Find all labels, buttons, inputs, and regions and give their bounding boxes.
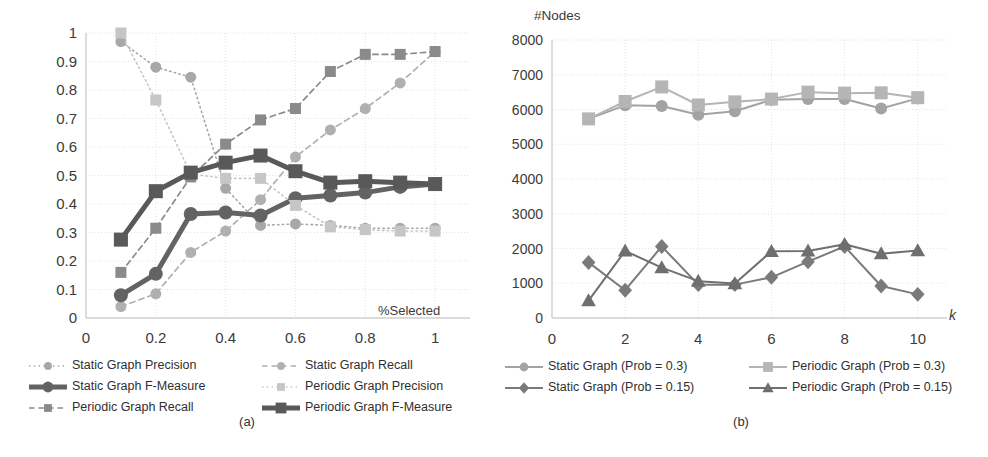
legend-key-periodic-prob-015-icon [748, 381, 788, 395]
legend-item-periodic-precision[interactable]: Periodic Graph Precision [261, 378, 490, 395]
svg-text:3000: 3000 [512, 206, 543, 222]
legend-key-static-recall-icon [261, 359, 301, 373]
legend-item-static-recall[interactable]: Static Graph Recall [261, 357, 490, 374]
legend-label-static-precision: Static Graph Precision [72, 357, 196, 374]
svg-text:10: 10 [909, 330, 926, 347]
svg-text:0.8: 0.8 [355, 329, 376, 346]
svg-text:4: 4 [694, 330, 702, 347]
svg-text:8000: 8000 [512, 32, 543, 48]
svg-text:0.8: 0.8 [56, 81, 77, 98]
svg-text:0.2: 0.2 [145, 329, 166, 346]
svg-text:0: 0 [535, 310, 543, 326]
svg-text:6: 6 [767, 330, 775, 347]
svg-text:0.4: 0.4 [215, 329, 236, 346]
legend-key-periodic-recall-icon [28, 401, 68, 415]
legend-key-periodic-fmeasure-icon [261, 401, 301, 415]
svg-text:7000: 7000 [512, 67, 543, 83]
legend-label-static-prob-015: Static Graph (Prob = 0.15) [548, 379, 694, 396]
legend-key-static-precision-icon [28, 359, 68, 373]
chart-b-y-axis-title: #Nodes [534, 8, 581, 23]
legend-key-periodic-precision-icon [261, 380, 301, 394]
chart-a-caption: (a) [0, 414, 494, 429]
legend-item-periodic-prob-015[interactable]: Periodic Graph (Prob = 0.15) [748, 379, 988, 396]
svg-text:2000: 2000 [512, 241, 543, 257]
chart-a-legend: Static Graph PrecisionStatic Graph Recal… [0, 357, 494, 416]
legend-item-static-prob-03[interactable]: Static Graph (Prob = 0.3) [504, 358, 744, 375]
legend-label-periodic-prob-03: Periodic Graph (Prob = 0.3) [792, 358, 945, 375]
figure-container: 00.10.20.30.40.50.60.70.80.9100.20.40.60… [0, 0, 988, 457]
svg-text:0.3: 0.3 [56, 224, 77, 241]
svg-text:0: 0 [69, 309, 77, 326]
legend-label-periodic-prob-015: Periodic Graph (Prob = 0.15) [792, 379, 952, 396]
chart-panel-b: 0100020003000400050006000700080000246810… [494, 0, 988, 457]
chart-b-x-axis-title: k [949, 307, 956, 323]
svg-text:6000: 6000 [512, 102, 543, 118]
svg-text:4000: 4000 [512, 171, 543, 187]
svg-text:0.7: 0.7 [56, 110, 77, 127]
svg-text:1: 1 [69, 24, 77, 41]
svg-text:5000: 5000 [512, 136, 543, 152]
chart-b-plot: 0100020003000400050006000700080000246810 [494, 0, 988, 360]
svg-text:1000: 1000 [512, 275, 543, 291]
svg-text:0: 0 [548, 330, 556, 347]
svg-text:0.1: 0.1 [56, 281, 77, 298]
svg-text:0.2: 0.2 [56, 252, 77, 269]
legend-label-periodic-precision: Periodic Graph Precision [305, 378, 443, 395]
legend-item-static-prob-015[interactable]: Static Graph (Prob = 0.15) [504, 379, 744, 396]
chart-panel-a: 00.10.20.30.40.50.60.70.80.9100.20.40.60… [0, 0, 494, 457]
svg-text:0.5: 0.5 [56, 167, 77, 184]
legend-item-static-precision[interactable]: Static Graph Precision [28, 357, 257, 374]
svg-text:0.6: 0.6 [285, 329, 306, 346]
svg-text:8: 8 [840, 330, 848, 347]
legend-item-static-fmeasure[interactable]: Static Graph F-Measure [28, 378, 257, 395]
legend-label-static-prob-03: Static Graph (Prob = 0.3) [548, 358, 687, 375]
svg-text:1: 1 [431, 329, 439, 346]
svg-text:2: 2 [621, 330, 629, 347]
legend-key-static-prob-03-icon [504, 360, 544, 374]
svg-text:0.9: 0.9 [56, 53, 77, 70]
svg-text:0: 0 [82, 329, 90, 346]
legend-item-periodic-prob-03[interactable]: Periodic Graph (Prob = 0.3) [748, 358, 988, 375]
svg-text:0.6: 0.6 [56, 138, 77, 155]
legend-key-static-prob-015-icon [504, 381, 544, 395]
chart-b-legend: Static Graph (Prob = 0.3)Periodic Graph … [494, 358, 988, 396]
legend-key-static-fmeasure-icon [28, 380, 68, 394]
chart-b-caption: (b) [494, 414, 988, 429]
legend-key-periodic-prob-03-icon [748, 360, 788, 374]
legend-label-static-recall: Static Graph Recall [305, 357, 413, 374]
chart-a-x-axis-title: %Selected [378, 303, 440, 318]
legend-label-static-fmeasure: Static Graph F-Measure [72, 378, 205, 395]
svg-text:0.4: 0.4 [56, 195, 77, 212]
